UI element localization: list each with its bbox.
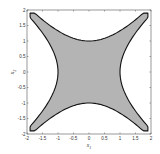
x-tick-label: -0.5: [70, 136, 78, 141]
y-tick-label: -0.5: [18, 85, 26, 90]
y-tick-label: -1: [21, 101, 25, 106]
y-tick-label: 1.5: [19, 23, 26, 28]
x-tick-label: 1.5: [132, 136, 139, 141]
x-tick-label: -2: [25, 136, 29, 141]
filled-region: [30, 13, 148, 131]
y-tick-label: -1.5: [18, 116, 26, 121]
x-tick-label: 0: [88, 136, 91, 141]
x-tick-label: -1.5: [39, 136, 47, 141]
x-tick-label: -1: [56, 136, 60, 141]
x-tick-label: 1: [119, 136, 122, 141]
x-axis-label: x1: [86, 142, 91, 150]
x-tick-label: 2: [150, 136, 153, 141]
y-tick-label: 2: [23, 8, 26, 13]
y-tick-label: -2: [21, 132, 25, 137]
x-tick-label: 0.5: [101, 136, 108, 141]
chart: -2-1.5-1-0.500.511.52-2-1.5-1-0.500.511.…: [0, 0, 160, 154]
plot-area: -2-1.5-1-0.500.511.52-2-1.5-1-0.500.511.…: [9, 8, 153, 150]
y-axis-label: x2: [9, 70, 17, 75]
y-tick-label: 0: [23, 70, 26, 75]
y-tick-label: 1: [23, 39, 26, 44]
y-tick-label: 0.5: [19, 54, 26, 59]
